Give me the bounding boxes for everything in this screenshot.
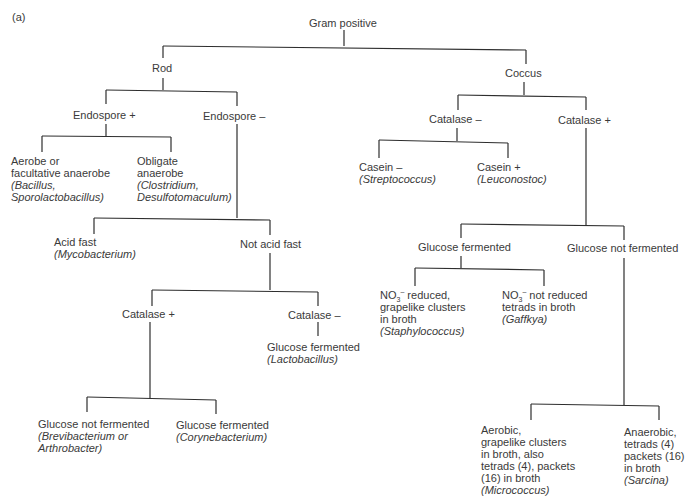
node-glucose-not-fermented: Glucose not fermented — [567, 242, 678, 254]
node-corynebacterium: Glucose fermented (Corynebacterium) — [176, 419, 269, 443]
node-leuconostoc: Casein + (Leuconostoc) — [477, 161, 547, 185]
genus-name: (Gaffkya) — [502, 313, 587, 325]
node-coccus: Coccus — [505, 67, 542, 79]
node-obligate-clostridium: Obligate anaerobe (Clostridium, Desulfot… — [137, 155, 232, 203]
genus-name: Sporolactobacillus) — [11, 191, 110, 203]
node-sarcina: Anaerobic, tetrads (4) packets (16) in b… — [624, 426, 685, 486]
node-brevibacterium: Glucose not fermented (Brevibacterium or… — [38, 418, 149, 454]
genus-name: (Streptococcus) — [359, 173, 436, 185]
node-glucose-fermented: Glucose fermented — [418, 241, 511, 253]
node-endospore-positive: Endospore + — [73, 109, 136, 121]
gram-positive-identification-key: (a) Gram positive Rod Coccus Endospore +… — [0, 0, 688, 504]
genus-name: (Clostridium, — [137, 179, 232, 191]
node-gaffkya: NO3– not reduced tetrads in broth (Gaffk… — [502, 289, 587, 325]
node-lactobacillus: Glucose fermented (Lactobacillus) — [267, 341, 360, 365]
genus-name: (Mycobacterium) — [54, 248, 136, 260]
figure-label: (a) — [12, 11, 25, 23]
node-endospore-negative: Endospore – — [203, 110, 265, 122]
genus-name: (Brevibacterium or — [38, 430, 149, 442]
node-rod-catalase-positive: Catalase + — [122, 308, 175, 320]
node-not-acid-fast: Not acid fast — [240, 238, 301, 250]
genus-name: (Lactobacillus) — [267, 353, 360, 365]
node-staphylococcus: NO3– reduced, grapelike clusters in brot… — [380, 289, 466, 337]
genus-name: (Micrococcus) — [481, 484, 575, 496]
genus-name: Arthrobacter) — [38, 442, 149, 454]
node-acid-fast-mycobacterium: Acid fast (Mycobacterium) — [54, 236, 136, 260]
genus-name: (Leuconostoc) — [477, 173, 547, 185]
node-coccus-catalase-negative: Catalase – — [429, 113, 482, 125]
node-aerobe-bacillus: Aerobe or facultative anaerobe (Bacillus… — [11, 155, 110, 203]
genus-name: Desulfotomaculum) — [137, 191, 232, 203]
genus-name: (Staphylococcus) — [380, 325, 466, 337]
node-coccus-catalase-positive: Catalase + — [558, 114, 611, 126]
node-rod: Rod — [152, 62, 172, 74]
node-rod-catalase-negative: Catalase – — [288, 309, 341, 321]
node-gram-positive: Gram positive — [309, 17, 377, 29]
genus-name: (Corynebacterium) — [176, 431, 269, 443]
genus-name: (Sarcina) — [624, 474, 685, 486]
node-streptococcus: Casein – (Streptococcus) — [359, 161, 436, 185]
node-micrococcus: Aerobic, grapelike clusters in broth, al… — [481, 424, 575, 496]
genus-name: (Bacillus, — [11, 179, 110, 191]
